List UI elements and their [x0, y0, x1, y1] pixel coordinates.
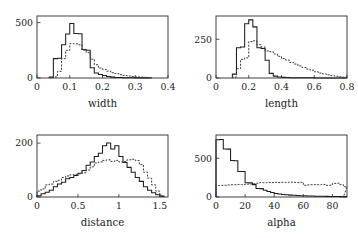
histogram-series-solid [232, 20, 347, 78]
panel-width-plot: 00.10.20.30.40500width [15, 16, 175, 109]
histogram-series-solid [37, 143, 164, 197]
y-tick-label: 500 [15, 17, 33, 28]
y-tick-label: 250 [194, 34, 212, 45]
panel-distance-plot: 00.511.50200distance [15, 135, 168, 228]
x-tick-label: 0.5 [71, 200, 86, 211]
x-tick-label: 0.8 [340, 81, 355, 92]
x-tick-label: 80 [327, 200, 339, 211]
histogram-series-dashed [37, 159, 164, 197]
x-tick-label: 0 [34, 200, 40, 211]
x-tick-label: 20 [239, 200, 251, 211]
x-axis-label: width [88, 98, 118, 109]
y-tick-label: 500 [194, 153, 212, 164]
x-tick-label: 60 [297, 200, 309, 211]
x-tick-label: 0 [213, 200, 219, 211]
x-axis-label: length [265, 98, 298, 109]
panel-length: 00.20.40.60.80250length [179, 0, 358, 119]
panel-width: 00.10.20.30.40500width [0, 0, 179, 119]
x-tick-label: 0.6 [307, 81, 322, 92]
x-tick-label: 0.1 [62, 81, 77, 92]
plot-frame [216, 135, 347, 197]
y-tick-label: 0 [27, 72, 33, 83]
y-tick-label: 0 [27, 191, 33, 202]
histogram-series-dashed [232, 41, 347, 78]
x-tick-label: 0.2 [95, 81, 110, 92]
panel-distance: 00.511.50200distance [0, 119, 179, 238]
x-tick-label: 0.3 [128, 81, 143, 92]
x-tick-label: 0.4 [274, 81, 289, 92]
x-tick-label: 40 [268, 200, 280, 211]
x-tick-label: 0.4 [161, 81, 176, 92]
x-tick-label: 0 [213, 81, 219, 92]
y-tick-label: 200 [15, 137, 33, 148]
plot-frame [216, 16, 347, 78]
panel-alpha-svg: 0204060800500alpha [179, 119, 358, 238]
plot-frame [37, 135, 168, 197]
histogram-series-solid [49, 24, 151, 78]
histogram-series-solid [216, 139, 347, 197]
panel-alpha-plot: 0204060800500alpha [194, 135, 347, 228]
histogram-series-dashed [49, 44, 151, 78]
y-tick-label: 0 [206, 72, 212, 83]
panel-distance-svg: 00.511.50200distance [0, 119, 179, 238]
histogram-figure: 00.10.20.30.40500width 00.20.40.60.80250… [0, 0, 358, 238]
panel-alpha: 0204060800500alpha [179, 119, 358, 238]
panel-width-svg: 00.10.20.30.40500width [0, 0, 179, 119]
y-tick-label: 0 [206, 191, 212, 202]
panel-length-svg: 00.20.40.60.80250length [179, 0, 358, 119]
x-tick-label: 1.5 [152, 200, 167, 211]
x-tick-label: 0.2 [241, 81, 256, 92]
panel-length-plot: 00.20.40.60.80250length [194, 16, 354, 109]
x-axis-label: alpha [267, 217, 296, 228]
x-tick-label: 1 [116, 200, 122, 211]
x-axis-label: distance [81, 217, 124, 228]
x-tick-label: 0 [34, 81, 40, 92]
